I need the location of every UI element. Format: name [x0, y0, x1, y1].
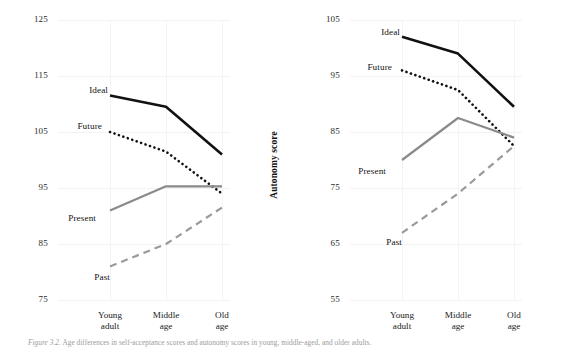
series-lines [58, 20, 230, 300]
y-axis-tick-label: 85 [308, 126, 340, 136]
x-axis-tick-line: age [192, 321, 252, 332]
series-label-future: Future [346, 62, 392, 72]
chart-panels: Self-acceptance score 125115105958575Ide… [0, 0, 583, 330]
gridline [350, 300, 522, 301]
figure-caption-text: Age differences in self-acceptance score… [62, 338, 371, 347]
x-axis-tick-label: Oldage [192, 310, 252, 332]
series-line-present [110, 186, 222, 210]
series-label-ideal: Ideal [354, 27, 400, 37]
series-line-past [402, 146, 514, 233]
x-axis-tick-line: Old [484, 310, 544, 321]
series-label-past: Past [64, 272, 110, 282]
y-axis-tick-label: 55 [308, 294, 340, 304]
x-axis-tick-line: Old [192, 310, 252, 321]
x-axis-tick-line: adult [372, 321, 432, 332]
y-axis-tick-label: 75 [308, 182, 340, 192]
y-axis-tick-label: 85 [16, 238, 48, 248]
y-axis-tick-label: 115 [16, 70, 48, 80]
series-label-past: Past [356, 237, 402, 247]
y-axis-tick-label: 95 [16, 182, 48, 192]
y-axis-tick-label: 125 [16, 14, 48, 24]
x-axis-tick-line: Middle [136, 310, 196, 321]
y-axis-tick-label: 75 [16, 294, 48, 304]
series-label-present: Present [340, 166, 386, 176]
x-axis-tick-line: adult [80, 321, 140, 332]
series-label-present: Present [50, 213, 96, 223]
x-axis-tick-line: age [484, 321, 544, 332]
figure-caption-label: Figure 3.2. [28, 338, 61, 347]
x-axis-tick-line: Middle [428, 310, 488, 321]
x-axis-tick-line: Young [80, 310, 140, 321]
plot-area-autonomy: 1059585756555IdealFuturePresentPastYoung… [350, 20, 522, 300]
x-axis-tick-line: Young [372, 310, 432, 321]
y-axis-title-autonomy: Autonomy score [269, 131, 279, 198]
gridline [58, 300, 230, 301]
plot-area-self-acceptance: 125115105958575IdealFuturePresentPastYou… [58, 20, 230, 300]
x-axis-tick-label: Youngadult [372, 310, 432, 332]
chart-panel-autonomy: Autonomy score 1059585756555IdealFutureP… [292, 0, 583, 330]
series-line-future [402, 70, 514, 146]
y-axis-tick-label: 95 [308, 70, 340, 80]
figure-caption: Figure 3.2. Age differences in self-acce… [28, 338, 568, 348]
series-line-present [402, 118, 514, 160]
x-axis-tick-label: Middleage [136, 310, 196, 332]
x-axis-tick-label: Youngadult [80, 310, 140, 332]
chart-panel-self-acceptance: Self-acceptance score 125115105958575Ide… [0, 0, 291, 330]
series-label-future: Future [56, 121, 102, 131]
x-axis-tick-label: Middleage [428, 310, 488, 332]
y-axis-tick-label: 105 [16, 126, 48, 136]
series-line-ideal [402, 37, 514, 107]
x-axis-tick-label: Oldage [484, 310, 544, 332]
series-line-ideal [110, 96, 222, 155]
series-label-ideal: Ideal [62, 85, 108, 95]
x-axis-tick-line: age [136, 321, 196, 332]
y-axis-tick-label: 65 [308, 238, 340, 248]
series-line-past [110, 208, 222, 267]
figure-container: Self-acceptance score 125115105958575Ide… [0, 0, 583, 349]
x-axis-tick-line: age [428, 321, 488, 332]
y-axis-tick-label: 105 [308, 14, 340, 24]
